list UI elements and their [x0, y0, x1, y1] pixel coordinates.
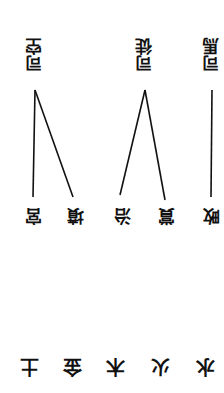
top-label-sima: 司馬 — [202, 38, 222, 72]
element-label-fire: 火 — [148, 355, 172, 382]
element-label-wood: 木 — [103, 355, 127, 382]
middle-label: 宮 — [22, 205, 44, 230]
top-label-sikong: 司空 — [25, 38, 45, 72]
connector-line — [120, 90, 145, 195]
connector-line — [145, 90, 165, 200]
middle-label: 墳 — [64, 205, 86, 230]
connector-line — [211, 90, 212, 197]
element-label-water: 水 — [193, 355, 217, 382]
element-label-metal: 金 — [60, 355, 84, 382]
middle-label: 治 — [111, 205, 133, 230]
top-label-situ: 司徒 — [135, 38, 155, 72]
connector-line — [33, 90, 35, 197]
middle-label: 賞 — [155, 205, 177, 230]
element-label-earth: 土 — [17, 355, 41, 382]
connector-line — [35, 90, 73, 197]
middle-label: 畋 — [200, 205, 222, 230]
